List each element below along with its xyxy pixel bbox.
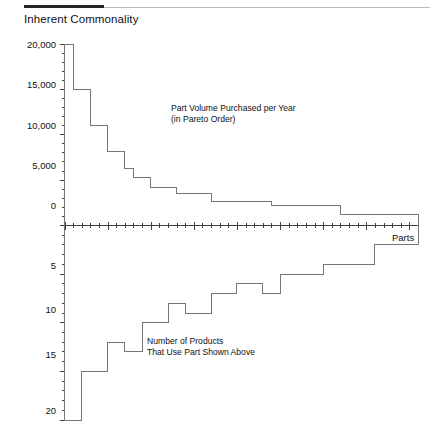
y-ticks-upper — [60, 44, 65, 226]
y-tick-label-lower: 20 — [4, 405, 56, 416]
series-part-volume — [65, 44, 419, 226]
annotation-product-count: Number of Products That Use Part Shown A… — [147, 336, 255, 357]
chart-figure: 20,000 15,000 10,000 5,000 0 5 10 15 20 … — [0, 0, 439, 429]
y-tick-label-lower: 10 — [4, 304, 56, 315]
chart-canvas — [0, 0, 439, 429]
series-product-count — [65, 226, 419, 421]
y-tick-label-upper: 5,000 — [4, 160, 56, 171]
y-tick-label-lower: 5 — [4, 260, 56, 271]
y-ticks-lower — [60, 226, 65, 421]
annotation-part-volume: Part Volume Purchased per Year (in Paret… — [171, 103, 296, 124]
y-tick-label-upper: 15,000 — [4, 79, 56, 90]
y-tick-label-upper: 10,000 — [4, 120, 56, 131]
x-axis-label: Parts — [392, 232, 414, 243]
y-tick-label-upper: 20,000 — [4, 39, 56, 50]
y-tick-label-lower: 15 — [4, 349, 56, 360]
y-tick-label-upper: 0 — [4, 200, 56, 211]
